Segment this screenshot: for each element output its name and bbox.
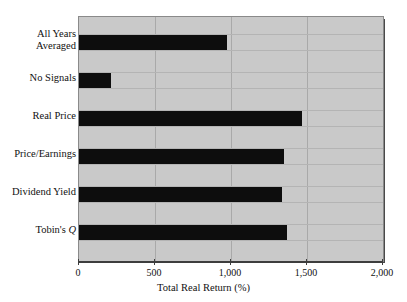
x-axis-title: Total Real Return (%) xyxy=(0,282,407,293)
bar-no-signals xyxy=(79,73,111,88)
x-tick-2000 xyxy=(382,259,383,265)
y-label-dividend-yield: Dividend Yield xyxy=(12,186,76,198)
y-label-tobins-prefix: Tobin's xyxy=(35,224,68,235)
gridline-horizontal-8 xyxy=(79,164,383,165)
x-tick-1000 xyxy=(230,259,231,265)
y-label-tobins-q-symbol: Q xyxy=(68,224,76,235)
x-ticklabel-1500: 1,500 xyxy=(295,267,318,278)
x-tick-0 xyxy=(78,259,79,265)
x-ticklabel-500: 500 xyxy=(147,267,162,278)
x-ticklabel-1000: 1,000 xyxy=(219,267,242,278)
gridline-horizontal-10 xyxy=(79,202,383,203)
y-label-all-years-averaged: All YearsAveraged xyxy=(36,28,76,51)
x-ticklabel-2000: 2,000 xyxy=(371,267,394,278)
gridline-horizontal-4 xyxy=(79,88,383,89)
bar-real-price xyxy=(79,111,302,126)
bar-all-years-averaged xyxy=(79,35,227,50)
gridline-horizontal-2 xyxy=(79,50,383,51)
y-label-tobins-q: Tobin's Q xyxy=(35,224,76,236)
plot-area xyxy=(78,16,384,262)
bar-tobins-q xyxy=(79,225,287,240)
bar-price-earnings xyxy=(79,149,284,164)
gridline-horizontal-6 xyxy=(79,126,383,127)
x-tick-1500 xyxy=(306,259,307,265)
y-label-price-earnings: Price/Earnings xyxy=(14,148,76,160)
y-label-no-signals: No Signals xyxy=(30,72,76,84)
bar-chart: All YearsAveraged No Signals Real Price … xyxy=(0,0,407,302)
gridline-horizontal-12 xyxy=(79,240,383,241)
y-label-real-price: Real Price xyxy=(33,110,76,122)
y-label-line1: All Years xyxy=(37,28,76,39)
x-ticklabel-0: 0 xyxy=(76,267,81,278)
gridline-horizontal-3 xyxy=(79,72,383,73)
y-label-line2: Averaged xyxy=(36,40,76,51)
x-tick-500 xyxy=(154,259,155,265)
bar-dividend-yield xyxy=(79,187,282,202)
